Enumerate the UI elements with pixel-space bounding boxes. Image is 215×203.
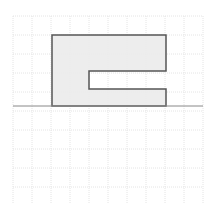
c-shape-polygon [52,35,166,106]
diagram-canvas [0,0,215,203]
